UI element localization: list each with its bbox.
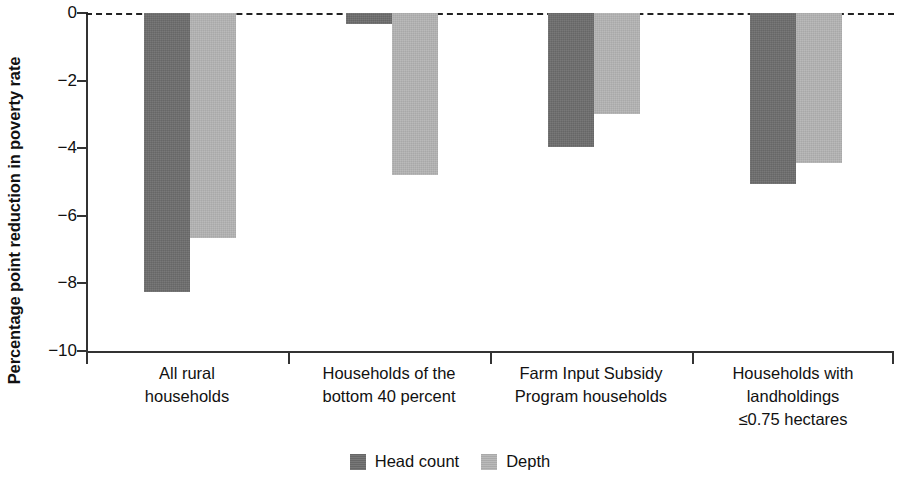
y-axis-tick-label: −8 bbox=[58, 273, 77, 293]
legend-item-depth[interactable]: Depth bbox=[481, 452, 550, 471]
y-axis-tick bbox=[77, 80, 86, 82]
x-axis-category-label-line: bottom 40 percent bbox=[282, 385, 496, 408]
legend-label: Depth bbox=[506, 452, 550, 471]
legend-swatch-icon bbox=[350, 454, 366, 470]
y-axis-tick-labels: 0−2−4−6−8−10 bbox=[33, 13, 77, 351]
x-axis-category-label-line: ≤0.75 hectares bbox=[686, 408, 900, 431]
y-axis-tick-label: 0 bbox=[68, 3, 77, 23]
x-axis-category-label: Farm Input SubsidyProgram households bbox=[484, 362, 698, 408]
y-axis-tick bbox=[77, 282, 86, 284]
y-axis-line bbox=[86, 12, 88, 352]
y-axis-tick bbox=[77, 350, 86, 352]
x-axis-category-label-line: All rural bbox=[80, 362, 294, 385]
chart-legend: Head countDepth bbox=[0, 452, 900, 471]
bar-depth-group-1 bbox=[190, 13, 236, 238]
legend-item-head-count[interactable]: Head count bbox=[350, 452, 459, 471]
bar-depth-group-2 bbox=[392, 13, 438, 175]
x-axis-category-label: All ruralhouseholds bbox=[80, 362, 294, 408]
x-axis-category-label-line: Households of the bbox=[282, 362, 496, 385]
x-axis-category-label: Households withlandholdings≤0.75 hectare… bbox=[686, 362, 900, 431]
legend-label: Head count bbox=[375, 452, 459, 471]
y-axis-title-text: Percentage point reduction in poverty ra… bbox=[6, 56, 25, 384]
y-axis-tick bbox=[77, 147, 86, 149]
x-axis-category-label-line: landholdings bbox=[686, 385, 900, 408]
x-axis-category-label-line: Farm Input Subsidy bbox=[484, 362, 698, 385]
bar-head-count-group-1 bbox=[144, 13, 190, 292]
y-axis-tick bbox=[77, 215, 86, 217]
x-axis-category-labels: All ruralhouseholdsHouseholds of thebott… bbox=[86, 362, 894, 440]
bar-depth-group-4 bbox=[796, 13, 842, 163]
x-axis-category-label-line: Program households bbox=[484, 385, 698, 408]
bar-head-count-group-4 bbox=[750, 13, 796, 184]
chart-figure: Percentage point reduction in poverty ra… bbox=[0, 0, 900, 485]
x-axis-category-label: Households of thebottom 40 percent bbox=[282, 362, 496, 408]
x-axis-category-label-line: households bbox=[80, 385, 294, 408]
x-axis-category-label-line: Households with bbox=[686, 362, 900, 385]
plot-area bbox=[86, 13, 894, 351]
y-axis-title: Percentage point reduction in poverty ra… bbox=[0, 0, 30, 440]
bar-depth-group-3 bbox=[594, 13, 640, 114]
y-axis-tick-label: −6 bbox=[58, 206, 77, 226]
y-axis-tick-label: −2 bbox=[58, 71, 77, 91]
y-axis-tick-label: −4 bbox=[58, 138, 77, 158]
legend-swatch-icon bbox=[481, 454, 497, 470]
y-axis-tick bbox=[77, 12, 86, 14]
bar-head-count-group-2 bbox=[346, 13, 392, 24]
bar-head-count-group-3 bbox=[548, 13, 594, 147]
y-axis-tick-label: −10 bbox=[48, 341, 77, 361]
